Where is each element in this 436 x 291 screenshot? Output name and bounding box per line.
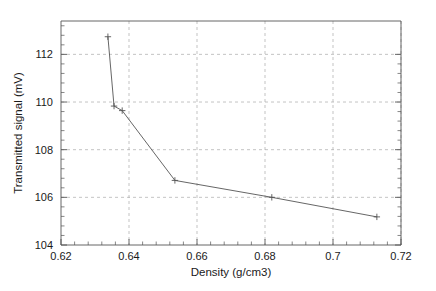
y-tick-label: 108 [35,144,53,156]
chart-figure: 0.620.640.660.680.70.72 104106108110112 … [0,0,436,291]
y-tick-label: 106 [35,191,53,203]
figure-background [0,0,436,291]
x-tick-label: 0.64 [118,250,139,262]
x-tick-label: 0.7 [325,250,340,262]
x-tick-label: 0.62 [50,250,71,262]
x-tick-label: 0.72 [390,250,411,262]
y-tick-label: 110 [35,96,53,108]
y-tick-label: 104 [35,239,53,251]
x-axis-title: Density (g/cm3) [191,266,272,278]
y-axis-title: Transmitted signal (mV) [12,72,24,194]
x-tick-label: 0.68 [254,250,275,262]
x-tick-label: 0.66 [186,250,207,262]
y-tick-label: 112 [35,48,53,60]
line-chart: 0.620.640.660.680.70.72 104106108110112 … [0,0,436,291]
